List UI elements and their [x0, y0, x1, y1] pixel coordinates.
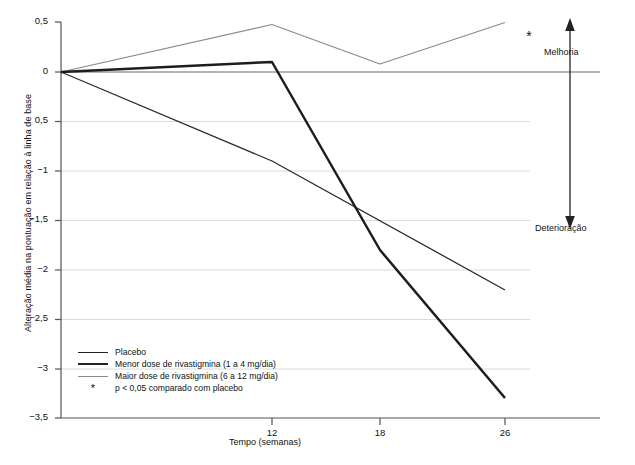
legend-item-lower-dose: Menor dose de rivastigmina (1 a 4 mg/dia…: [78, 358, 278, 370]
chart-figure: * 0,5 0 0,5 −1 −1,5 −2 −2,5 −3 −3,5 12 1…: [0, 0, 635, 465]
legend-item-higher-dose: Maior dose de rivastigmina (6 a 12 mg/di…: [78, 370, 278, 382]
y-tick-label-8: −3,5: [14, 411, 48, 422]
legend-swatch-placebo: [78, 352, 108, 353]
legend-item-placebo: Placebo: [78, 346, 278, 358]
series-line-higher-dose: [61, 23, 505, 73]
legend-swatch-higher-dose: [78, 376, 108, 377]
legend-item-significance-note: * p < 0,05 comparado com placebo: [78, 382, 278, 394]
y-tick-marks: [55, 22, 61, 418]
gridlines: [61, 122, 530, 370]
x-axis-title: Tempo (semanas): [0, 437, 530, 447]
legend-star-icon: *: [78, 384, 108, 392]
chart-legend: Placebo Menor dose de rivastigmina (1 a …: [78, 346, 278, 394]
legend-label-lower-dose: Menor dose de rivastigmina (1 a 4 mg/dia…: [115, 359, 276, 370]
legend-note-text: p < 0,05 comparado com placebo: [115, 383, 243, 394]
legend-swatch-lower-dose: [78, 363, 108, 365]
significance-star-icon: *: [526, 28, 532, 44]
deterioration-label: Deterioração: [535, 223, 587, 233]
legend-label-placebo: Placebo: [115, 347, 146, 358]
y-axis-title: Alteração média na pontuação em relação …: [23, 63, 33, 363]
x-tick-marks: [272, 418, 505, 425]
legend-label-higher-dose: Maior dose de rivastigmina (6 a 12 mg/di…: [115, 371, 278, 382]
series-line-placebo: [61, 72, 505, 290]
y-tick-label-0: 0,5: [14, 15, 48, 26]
y-tick-label-7: −3: [14, 362, 48, 373]
improvement-label: Melhoria: [544, 47, 579, 57]
